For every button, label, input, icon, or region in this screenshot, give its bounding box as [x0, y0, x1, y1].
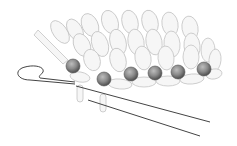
knitting-illustration — [0, 0, 237, 146]
knitted-fabric — [34, 8, 223, 112]
illustration-svg — [0, 0, 237, 146]
